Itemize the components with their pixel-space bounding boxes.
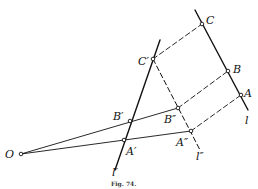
geometry-figure: O C B A C′ B′ A′ B″ A″ l l′ l″ Fig. 74. (0, 0, 258, 189)
label-a-double-prime: A″ (175, 136, 189, 149)
point-c (200, 22, 204, 26)
point-a (239, 93, 243, 97)
label-b-double-prime: B″ (163, 113, 177, 126)
point-c-prime (151, 57, 155, 61)
dashed-a-double-prime-a (191, 95, 241, 131)
point-o (19, 152, 23, 156)
label-line-l-double-prime: l″ (196, 150, 205, 163)
label-b-prime: B′ (112, 110, 124, 123)
label-a: A (243, 87, 252, 100)
dashed-c-prime-c (153, 24, 202, 59)
figure-caption: Fig. 74. (111, 180, 136, 188)
label-line-l: l (245, 114, 249, 127)
label-b: B (232, 63, 241, 76)
label-o: O (5, 148, 14, 161)
point-b-prime (128, 119, 132, 123)
point-a-prime (122, 138, 126, 142)
label-c: C (206, 14, 215, 27)
dashed-b-double-prime-b (178, 71, 228, 108)
point-b (226, 69, 230, 73)
ray-o-a-double-prime (21, 131, 191, 154)
label-a-prime: A′ (125, 145, 137, 158)
point-b-double-prime (176, 106, 180, 110)
label-c-prime: C′ (138, 55, 149, 68)
point-a-double-prime (189, 129, 193, 133)
label-line-l-prime: l′ (112, 166, 119, 179)
ray-o-b-double-prime (21, 108, 178, 154)
